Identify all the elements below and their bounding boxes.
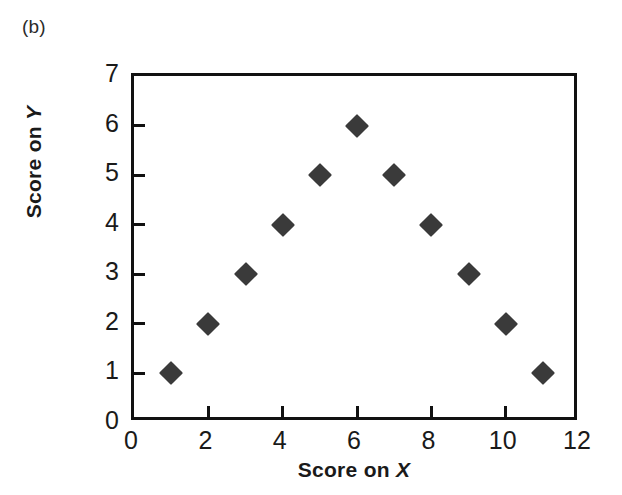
- x-axis-tick-4: [281, 406, 284, 417]
- x-tick-label-0: 0: [109, 426, 153, 455]
- y-axis-variable: Y: [22, 106, 45, 120]
- plot-area: [134, 76, 574, 417]
- y-axis-tick-3: [134, 273, 145, 276]
- y-tick-label-5: 5: [89, 158, 119, 187]
- x-axis-tick-8: [430, 406, 433, 417]
- x-tick-label-6: 6: [332, 426, 376, 455]
- y-axis-title-text: Score on: [22, 120, 45, 218]
- y-axis-tick-5: [134, 174, 145, 177]
- data-point: [345, 114, 369, 138]
- x-tick-label-10: 10: [481, 426, 525, 455]
- x-axis-variable: X: [396, 458, 410, 481]
- data-point: [531, 361, 555, 385]
- y-axis-tick-6: [134, 124, 145, 127]
- plot-frame: [131, 73, 577, 420]
- y-tick-label-4: 4: [89, 207, 119, 236]
- x-axis-title: Score on X: [131, 458, 577, 482]
- data-point: [494, 312, 518, 336]
- data-point: [196, 312, 220, 336]
- x-axis-tick-10: [504, 406, 507, 417]
- y-tick-label-2: 2: [89, 306, 119, 335]
- data-point: [159, 361, 183, 385]
- x-tick-label-2: 2: [183, 426, 227, 455]
- y-axis-title: Score on Y: [22, 0, 46, 342]
- x-tick-label-4: 4: [258, 426, 302, 455]
- y-tick-label-7: 7: [89, 59, 119, 88]
- y-axis-tick-2: [134, 322, 145, 325]
- x-axis-title-text: Score on: [298, 458, 396, 481]
- x-axis-tick-2: [207, 406, 210, 417]
- y-tick-label-6: 6: [89, 108, 119, 137]
- data-point: [233, 262, 257, 286]
- data-point: [419, 213, 443, 237]
- y-axis-tick-4: [134, 223, 145, 226]
- data-point: [382, 163, 406, 187]
- y-tick-label-3: 3: [89, 257, 119, 286]
- data-point: [308, 163, 332, 187]
- data-point: [456, 262, 480, 286]
- scatter-plot-figure: (b) 01234567 024681012 Score on X Score …: [0, 0, 622, 495]
- x-axis-tick-6: [356, 406, 359, 417]
- data-point: [271, 213, 295, 237]
- x-tick-label-8: 8: [406, 426, 450, 455]
- y-axis-tick-1: [134, 372, 145, 375]
- x-tick-label-12: 12: [555, 426, 599, 455]
- y-tick-label-1: 1: [89, 356, 119, 385]
